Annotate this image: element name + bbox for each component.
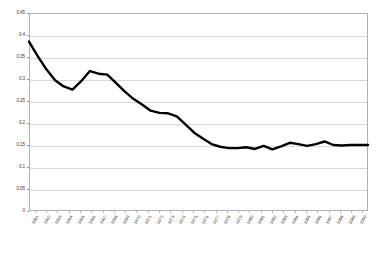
x-tick-mark	[216, 211, 217, 213]
x-tick-mark	[204, 211, 205, 213]
x-tick-label: 1988	[337, 215, 345, 225]
x-tick-label: 1977	[213, 215, 221, 225]
x-tick-label: 1962	[43, 215, 51, 225]
x-tick-label: 1983	[280, 215, 288, 225]
y-tick-label: 0	[23, 209, 25, 214]
x-tick-label: 1980	[246, 215, 254, 225]
x-tick-label: 1982	[269, 215, 277, 225]
x-tick-label: 1976	[201, 215, 209, 225]
x-tick-label: 1987	[326, 215, 334, 225]
y-tick-label: 0.3	[19, 77, 25, 82]
x-tick-mark	[351, 211, 352, 213]
x-tick-mark	[249, 211, 250, 213]
x-tick-mark	[136, 211, 137, 213]
x-tick-label: 1979	[235, 215, 243, 225]
x-tick-label: 1970	[133, 215, 141, 225]
y-tick-label: 0.25	[16, 99, 25, 104]
x-tick-label: 1966	[88, 215, 96, 225]
x-tick-mark	[261, 211, 262, 213]
x-tick-mark	[103, 211, 104, 213]
x-tick-label: 1985	[303, 215, 311, 225]
x-tick-mark	[57, 211, 58, 213]
x-tick-label: 1986	[314, 215, 322, 225]
x-tick-label: 1974	[179, 215, 187, 225]
x-tick-label: 1981	[258, 215, 266, 225]
x-tick-mark	[329, 211, 330, 213]
x-tick-label: 1964	[66, 215, 74, 225]
series-line-1	[29, 42, 368, 150]
x-tick-label: 1965	[77, 215, 85, 225]
x-tick-mark	[317, 211, 318, 213]
y-tick-label: 0.45	[16, 11, 25, 16]
x-tick-mark	[238, 211, 239, 213]
x-tick-mark	[306, 211, 307, 213]
x-tick-label: 1973	[167, 215, 175, 225]
x-tick-mark	[69, 211, 70, 213]
x-axis: 1961196219631964196519661967196819691970…	[29, 211, 368, 259]
x-tick-label: 1963	[54, 215, 62, 225]
x-tick-mark	[362, 211, 363, 213]
x-tick-label: 1990	[359, 215, 367, 225]
x-tick-mark	[340, 211, 341, 213]
y-tick-label: 0.2	[19, 121, 25, 126]
x-tick-label: 1989	[348, 215, 356, 225]
x-tick-label: 1968	[111, 215, 119, 225]
x-tick-mark	[148, 211, 149, 213]
x-tick-label: 1969	[122, 215, 130, 225]
y-tick-label: 0.1	[19, 165, 25, 170]
x-tick-label: 1961	[32, 215, 40, 225]
x-tick-label: 1978	[224, 215, 232, 225]
y-tick-label: 0.4	[19, 33, 25, 38]
y-axis: 00.050.10.150.20.250.30.350.40.45	[0, 0, 29, 259]
x-tick-mark	[125, 211, 126, 213]
x-tick-label: 1967	[99, 215, 107, 225]
x-tick-mark	[170, 211, 171, 213]
x-tick-mark	[227, 211, 228, 213]
x-tick-mark	[114, 211, 115, 213]
x-tick-mark	[91, 211, 92, 213]
y-tick-label: 0.05	[16, 187, 25, 192]
x-tick-label: 1984	[292, 215, 300, 225]
y-tick-label: 0.35	[16, 55, 25, 60]
series-layer	[29, 13, 368, 211]
x-tick-mark	[283, 211, 284, 213]
y-tick-label: 0.15	[16, 143, 25, 148]
x-tick-mark	[35, 211, 36, 213]
x-tick-label: 1975	[190, 215, 198, 225]
x-tick-mark	[159, 211, 160, 213]
x-tick-mark	[80, 211, 81, 213]
x-tick-label: 1971	[145, 215, 153, 225]
line-chart: 00.050.10.150.20.250.30.350.40.45 196119…	[0, 0, 388, 259]
x-tick-label: 1972	[156, 215, 164, 225]
x-tick-mark	[272, 211, 273, 213]
x-tick-mark	[193, 211, 194, 213]
x-tick-mark	[295, 211, 296, 213]
x-tick-mark	[182, 211, 183, 213]
x-tick-mark	[46, 211, 47, 213]
